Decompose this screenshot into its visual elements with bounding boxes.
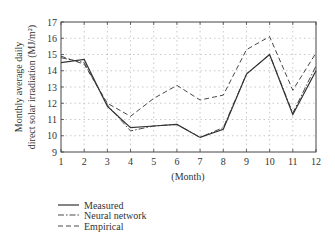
x-tick-label: 11 <box>288 156 298 167</box>
legend-label: Neural network <box>84 210 146 221</box>
y-tick-label: 15 <box>47 49 57 60</box>
y-tick-label: 13 <box>47 82 57 93</box>
y-tick-label: 17 <box>47 17 57 28</box>
y-tick-label: 9 <box>52 147 57 158</box>
x-tick-label: 4 <box>128 156 133 167</box>
x-tick-label: 8 <box>221 156 226 167</box>
x-tick-label: 12 <box>311 156 321 167</box>
x-tick-label: 6 <box>174 156 179 167</box>
series-neural-network <box>61 55 316 138</box>
x-tick-label: 5 <box>151 156 156 167</box>
line-chart: 91011121314151617 123456789101112 Monthl… <box>0 0 335 241</box>
x-axis-label: (Month) <box>171 171 204 183</box>
grid-lines <box>61 22 316 152</box>
y-tick-label: 14 <box>47 65 57 76</box>
y-axis-label-line2: direct solar irradiation (MJ/m²) <box>26 25 38 149</box>
x-tick-label: 1 <box>59 156 64 167</box>
x-axis-ticks: 123456789101112 <box>59 22 322 167</box>
x-tick-label: 3 <box>105 156 110 167</box>
y-tick-label: 10 <box>47 130 57 141</box>
y-axis-label-line1: Monthly average daily <box>13 42 24 133</box>
y-tick-label: 12 <box>47 98 57 109</box>
x-tick-label: 7 <box>198 156 203 167</box>
x-tick-label: 10 <box>265 156 275 167</box>
legend: MeasuredNeural networkEmpirical <box>58 200 146 232</box>
y-tick-label: 11 <box>47 114 57 125</box>
x-tick-label: 9 <box>244 156 249 167</box>
y-tick-label: 16 <box>47 33 57 44</box>
series-measured <box>61 55 316 138</box>
legend-label: Empirical <box>84 221 124 232</box>
x-tick-label: 2 <box>82 156 87 167</box>
